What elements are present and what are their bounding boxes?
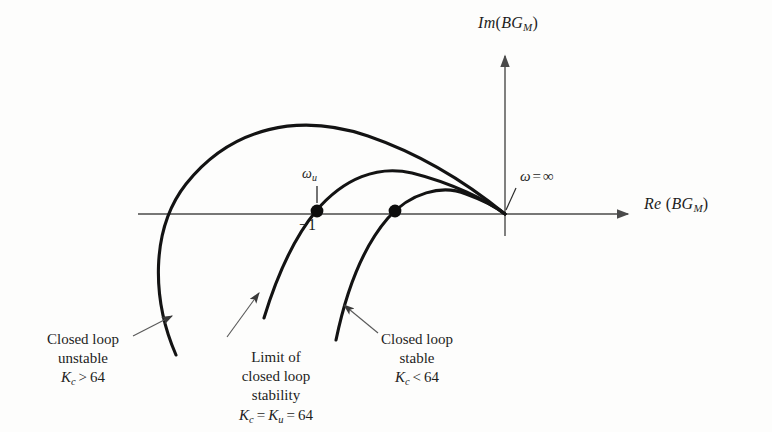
k-symbol: K [239,407,249,423]
curve-stable [336,190,505,340]
k-symbol: K [395,369,405,385]
x-axis-label-close-paren: ) [703,195,709,212]
caption-limit-line3: stability [196,386,356,405]
omega-u-symbol: ω [302,166,312,181]
nyquist-diagram-figure: Im(BGM) Re (BGM) ω=∞ ωu −1 Closed loop u… [0,0,772,432]
k-subscript: c [405,377,410,388]
x-axis-label-prefix: Re [644,195,661,212]
caption-limit-gain-condition: Kc=Ku=64 [196,406,356,427]
k-symbol: K [61,369,71,385]
caption-limit-of-stability: Limit of closed loop stability Kc=Ku=64 [196,348,356,426]
y-axis-label-close-paren: ) [533,14,539,31]
stable-crossing-dot [389,205,402,218]
k-value: 64 [298,407,313,423]
omega-u-label: ωu [302,166,317,183]
y-axis-label: Im(BGM) [478,14,538,33]
ku-symbol: K [268,407,278,423]
k-operator: = [254,407,268,423]
axis-lines [138,56,628,236]
omega-equals-sign: = [531,168,543,184]
leader-stable [344,305,378,333]
infinity-symbol: ∞ [543,168,554,184]
caption-stable-gain-condition: Kc<64 [352,368,482,389]
x-axis-label-sub: M [693,202,702,214]
omega-infinity-leader [506,188,516,210]
caption-unstable-gain-condition: Kc>64 [18,368,148,389]
curve-limit [264,171,505,318]
caption-stable-line2: stable [352,349,482,368]
nyquist-curves [158,125,505,355]
caption-limit-line2: closed loop [196,367,356,386]
omega-infinity-label: ω=∞ [520,168,554,185]
caption-stable-line1: Closed loop [352,330,482,349]
k-operator: > [76,369,90,385]
omega-u-subscript: u [312,172,317,183]
k-operator: < [410,369,424,385]
caption-unstable-line1: Closed loop [18,330,148,349]
x-axis-label-main: BG [671,195,693,212]
omega-symbol: ω [520,168,531,184]
k-value: 64 [90,369,105,385]
k-subscript: c [71,377,76,388]
y-axis-label-main: BG [501,14,523,31]
critical-point-label: −1 [299,216,316,234]
ku-operator: = [283,407,297,423]
leader-limit [227,293,259,337]
caption-closed-loop-stable: Closed loop stable Kc<64 [352,330,482,389]
x-axis-label: Re (BGM) [644,195,708,214]
y-axis-label-sub: M [523,21,532,33]
caption-limit-line1: Limit of [196,348,356,367]
y-axis-label-prefix: Im [478,14,495,31]
caption-unstable-line2: unstable [18,349,148,368]
caption-closed-loop-unstable: Closed loop unstable Kc>64 [18,330,148,389]
curve-unstable [158,125,505,355]
k-value: 64 [424,369,439,385]
